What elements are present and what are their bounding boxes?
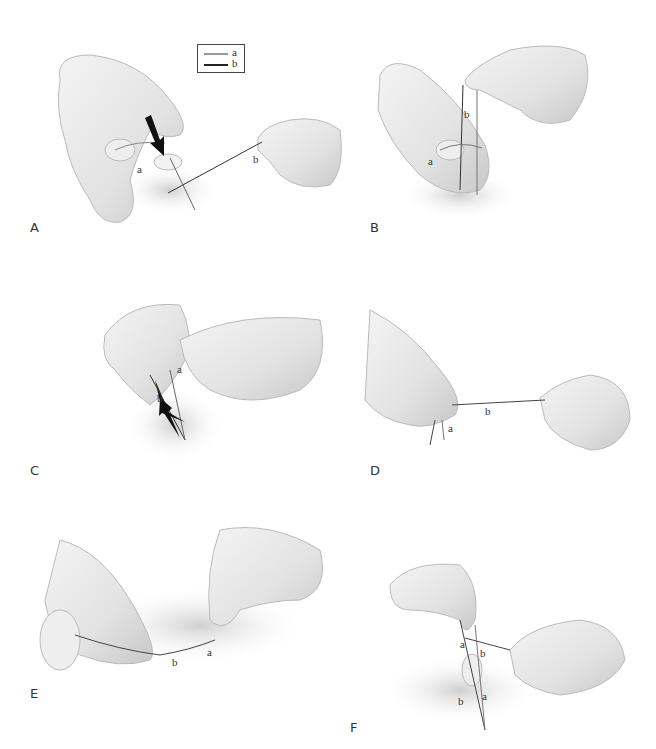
thread-label: b (480, 647, 486, 659)
thread-label: b (464, 108, 470, 120)
panel-e: b a E (0, 510, 360, 710)
thread-label: b (458, 695, 464, 707)
thread-label: a (428, 155, 433, 167)
thread-label: a (177, 363, 182, 375)
thread-label: b (157, 392, 163, 404)
thread-label: b (253, 153, 259, 165)
panel-d-illustration (340, 300, 656, 480)
panel-e-illustration (0, 510, 360, 710)
panel-f: a b b a F (360, 530, 656, 749)
panel-a-illustration (0, 0, 340, 240)
right-hand-shape (540, 375, 630, 450)
panel-label: C (30, 463, 39, 478)
right-hand-shape (510, 620, 625, 695)
panel-d: b a D (340, 300, 656, 480)
thread-label: a (448, 422, 453, 434)
left-hand-shape (365, 310, 458, 426)
thread-label: a (482, 690, 487, 702)
right-hand-shape (465, 46, 588, 123)
left-hand-shape (390, 564, 476, 630)
right-hand-shape (258, 119, 341, 187)
panel-label: E (30, 686, 38, 701)
right-hand-shape (180, 318, 323, 401)
thread-label: b (485, 405, 491, 417)
thread-label: a (460, 638, 465, 650)
panel-b-illustration (340, 0, 656, 240)
panel-f-illustration (360, 530, 656, 749)
panel-c: a b C (0, 280, 340, 480)
thread-label: a (137, 163, 142, 175)
panel-label: F (350, 720, 357, 735)
panel-label: D (370, 463, 380, 478)
thread-label: b (172, 656, 178, 668)
panel-label: B (370, 220, 379, 235)
panel-c-illustration (0, 280, 340, 480)
thread-label: a (207, 646, 212, 658)
panel-a: a b A (0, 0, 340, 240)
panel-label: A (30, 220, 39, 235)
panel-b: b a B (340, 0, 656, 240)
